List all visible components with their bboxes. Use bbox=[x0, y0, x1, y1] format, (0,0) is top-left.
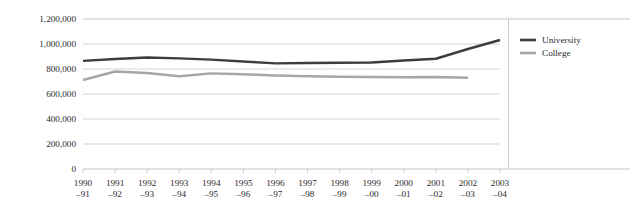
data-series-group bbox=[83, 40, 500, 80]
y-axis-tick-label: 0 bbox=[71, 164, 76, 174]
y-axis-tick-label: 400,000 bbox=[46, 114, 76, 124]
x-axis-tickmarks bbox=[83, 169, 500, 173]
y-axis-tick-label: 800,000 bbox=[46, 64, 76, 74]
x-axis-tick-label: 1999–00 bbox=[363, 178, 382, 199]
x-axis-tick-label: 2000–01 bbox=[395, 178, 414, 199]
x-axis-tick-label: 1996–97 bbox=[266, 178, 285, 199]
series-line-university bbox=[83, 40, 500, 63]
x-axis-tick-label: 1990–91 bbox=[74, 178, 93, 199]
line-chart: 1,200,0001,000,000800,000600,000400,0002… bbox=[0, 0, 642, 215]
legend: UniversityCollege bbox=[520, 35, 581, 58]
x-axis-tick-label: 1998–99 bbox=[330, 178, 349, 199]
chart-canvas: 1,200,0001,000,000800,000600,000400,0002… bbox=[0, 0, 642, 215]
x-axis-tick-label: 2001–02 bbox=[427, 178, 446, 199]
series-line-college bbox=[83, 72, 468, 81]
y-axis-tick-labels: 1,200,0001,000,000800,000600,000400,0002… bbox=[39, 14, 76, 174]
x-axis-tick-labels: 1990–911991–921992–931993–941994–951995–… bbox=[74, 178, 510, 199]
x-axis-tick-label: 1992–93 bbox=[138, 178, 157, 199]
y-axis-tick-label: 200,000 bbox=[46, 139, 76, 149]
y-axis-tick-label: 600,000 bbox=[46, 89, 76, 99]
x-axis-tick-label: 1994–95 bbox=[202, 178, 221, 199]
x-axis-tick-label: 1995–96 bbox=[234, 178, 253, 199]
y-axis-tick-label: 1,000,000 bbox=[39, 39, 76, 49]
legend-label-college: College bbox=[542, 48, 571, 58]
x-axis-tick-label: 1997–98 bbox=[298, 178, 317, 199]
x-axis-tick-label: 2002–03 bbox=[459, 178, 478, 199]
y-axis-tick-label: 1,200,000 bbox=[39, 14, 76, 24]
legend-label-university: University bbox=[542, 35, 581, 45]
x-axis-tick-label: 1993–94 bbox=[170, 178, 189, 199]
x-axis-tick-label: 2003–04 bbox=[491, 178, 510, 199]
x-axis-tick-label: 1991–92 bbox=[106, 178, 125, 199]
